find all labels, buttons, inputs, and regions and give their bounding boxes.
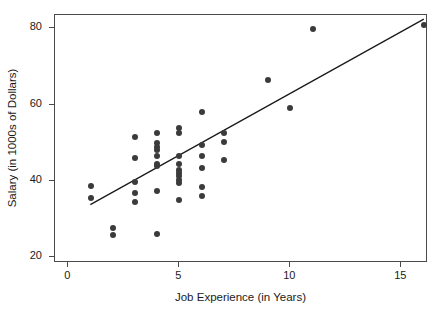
data-point	[132, 179, 138, 185]
data-point	[199, 142, 205, 148]
x-tick-mark	[289, 262, 290, 267]
y-axis-title: Salary (in 1000s of Dollars)	[6, 14, 20, 262]
data-point	[132, 134, 138, 140]
data-point	[199, 184, 205, 190]
data-point	[110, 225, 116, 231]
data-point	[199, 165, 205, 171]
data-point	[154, 188, 160, 194]
data-point	[199, 109, 205, 115]
plot-frame	[54, 14, 427, 262]
data-point	[221, 157, 227, 163]
x-axis-title: Job Experience (in Years)	[54, 291, 427, 303]
data-point	[132, 155, 138, 161]
data-point	[265, 77, 271, 83]
data-point	[221, 130, 227, 136]
x-tick-label: 10	[269, 269, 309, 281]
x-tick-mark	[67, 262, 68, 267]
x-tick-mark	[178, 262, 179, 267]
x-tick-label: 0	[47, 269, 87, 281]
x-tick-label: 15	[380, 269, 420, 281]
data-point	[132, 199, 138, 205]
data-point	[421, 22, 427, 28]
trendline	[90, 19, 423, 204]
data-point	[110, 232, 116, 238]
data-point	[88, 183, 94, 189]
scatter-chart: 20406080 Salary (in 1000s of Dollars) 05…	[0, 0, 439, 316]
x-tick-label: 5	[158, 269, 198, 281]
data-point	[199, 193, 205, 199]
plot-area	[55, 15, 426, 261]
data-point	[221, 139, 227, 145]
data-point	[88, 195, 94, 201]
x-tick-mark	[400, 262, 401, 267]
data-point	[199, 153, 205, 159]
